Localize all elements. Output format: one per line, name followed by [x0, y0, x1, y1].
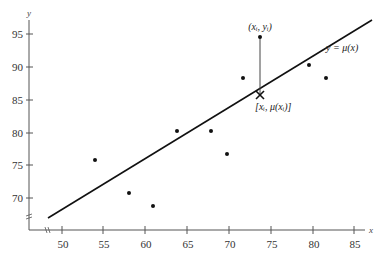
- y-axis-label: y: [26, 8, 31, 18]
- x-tick-60: 60: [141, 238, 153, 250]
- fitted-point-label: [xᵢ, μ(xᵢ)]: [255, 101, 292, 113]
- data-point: [225, 152, 229, 156]
- highlighted-point-label: (xᵢ, yᵢ): [248, 21, 272, 33]
- y-tick-85: 85: [12, 94, 24, 106]
- regression-line: [48, 20, 372, 218]
- y-tick-75: 75: [12, 159, 24, 171]
- highlighted-data-point: [258, 35, 262, 39]
- x-tick-50: 50: [58, 238, 70, 250]
- y-tick-95: 95: [12, 28, 24, 40]
- y-tick-80: 80: [12, 127, 24, 139]
- x-axis-label: x: [368, 225, 373, 235]
- data-point: [209, 129, 213, 133]
- x-tick-65: 65: [183, 238, 195, 250]
- y-tick-labels: 70 75 80 85 90 95: [12, 28, 24, 204]
- data-point: [241, 76, 245, 80]
- x-tick-85: 85: [350, 238, 362, 250]
- data-points: [93, 35, 328, 208]
- regression-chart: y x 70 75 80 85 90 95 50 55 60 65 7: [0, 0, 388, 258]
- data-point: [324, 76, 328, 80]
- x-tick-labels: 50 55 60 65 70 75 80 85: [58, 238, 362, 250]
- x-tick-70: 70: [225, 238, 237, 250]
- y-tick-70: 70: [12, 192, 24, 204]
- data-point: [127, 191, 131, 195]
- x-tick-75: 75: [267, 238, 279, 250]
- data-point: [307, 63, 311, 67]
- regression-line-label: y = μ(x): [325, 42, 359, 54]
- y-tick-90: 90: [12, 61, 24, 73]
- data-point: [151, 204, 155, 208]
- x-tick-55: 55: [99, 238, 111, 250]
- x-tick-80: 80: [309, 238, 321, 250]
- data-point: [93, 158, 97, 162]
- data-point: [175, 129, 179, 133]
